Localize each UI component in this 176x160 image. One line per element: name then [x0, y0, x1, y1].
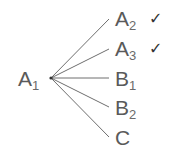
node-label: A: [115, 37, 129, 60]
branch-line-a3: [51, 49, 109, 78]
branch-line-c: [51, 78, 109, 137]
node-subscript: 2: [129, 18, 136, 33]
branch-node-b1: B1: [115, 68, 136, 89]
node-subscript: 1: [129, 78, 136, 93]
node-subscript: 3: [129, 48, 136, 63]
node-subscript: 2: [129, 107, 136, 122]
branch-node-a2: A2: [115, 8, 136, 29]
branch-node-b2: B2: [115, 97, 136, 118]
check-icon: ✓: [149, 41, 162, 57]
node-subscript: 1: [32, 78, 39, 93]
node-label: B: [115, 67, 129, 90]
tree-diagram: A1 A2 ✓ A3 ✓ B1 B2 C: [0, 0, 176, 160]
branch-line-b2: [51, 78, 109, 107]
check-icon: ✓: [149, 11, 162, 27]
branch-node-a3: A3: [115, 38, 136, 59]
node-label: B: [115, 96, 129, 119]
node-label: A: [18, 67, 32, 90]
node-label: A: [115, 7, 129, 30]
branch-node-c: C: [115, 127, 130, 148]
node-label: C: [115, 126, 130, 149]
branch-line-a2: [51, 19, 109, 78]
root-node-a1: A1: [18, 68, 39, 89]
root-dot: [49, 76, 52, 79]
